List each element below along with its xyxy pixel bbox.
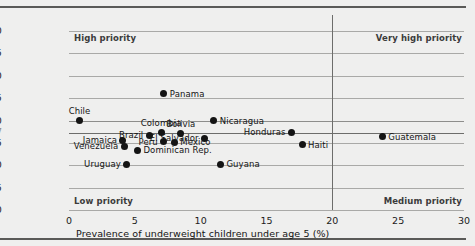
gridline [69, 210, 464, 211]
x-tick-label: 10 [186, 215, 216, 226]
data-point[interactable] [201, 135, 208, 142]
gridline [69, 143, 464, 144]
data-point[interactable] [76, 117, 83, 124]
data-point-label: Honduras [244, 127, 286, 137]
gridline [69, 76, 464, 77]
top-rule [0, 6, 466, 8]
data-point-label: Bolivia [166, 119, 195, 129]
data-point[interactable] [288, 129, 295, 136]
data-point-label: Guatemala [388, 132, 436, 142]
gridline [69, 53, 464, 54]
y-tick-label: -5 [0, 137, 2, 148]
y-tick-label: 0 [0, 115, 2, 126]
y-tick-label: -20 [0, 204, 2, 215]
data-point-label: Dominican Rep. [143, 145, 211, 155]
plot-area: 20151050-2.7-5-10-15-20 051015202530 Chi… [69, 31, 464, 210]
quadrant-label-very-high-priority: Very high priority [376, 33, 462, 43]
data-point[interactable] [123, 161, 130, 168]
gridline [69, 121, 464, 122]
x-tick-label: 0 [54, 215, 84, 226]
data-point[interactable] [160, 90, 167, 97]
vertical-threshold-line [332, 15, 333, 210]
x-tick-label: 5 [120, 215, 150, 226]
y-tick-label: -15 [0, 182, 2, 193]
data-point-label: Haiti [308, 140, 328, 150]
y-tick-label: 20 [0, 25, 2, 36]
data-point-label: Venezuela [74, 141, 119, 151]
x-tick-label: 25 [383, 215, 413, 226]
data-point[interactable] [134, 147, 141, 154]
x-tick-label: 20 [317, 215, 347, 226]
data-point-label: Nicaragua [220, 116, 264, 126]
data-point[interactable] [379, 133, 386, 140]
data-point-label: Guyana [226, 159, 259, 169]
gridline [69, 31, 464, 32]
quadrant-label-medium-priority: Medium priority [384, 196, 462, 206]
gridline [69, 98, 464, 99]
y-tick-label: -2.7 [0, 127, 2, 137]
data-point-label: Uruguay [84, 159, 121, 169]
gridline [69, 188, 464, 189]
quadrant-label-high-priority: High priority [74, 33, 136, 43]
y-tick-label: 10 [0, 70, 2, 81]
data-point[interactable] [210, 117, 217, 124]
data-point-label: El Salvador [150, 133, 199, 143]
data-point-label: Chile [69, 106, 91, 116]
y-tick-label: 5 [0, 92, 2, 103]
data-point[interactable] [299, 141, 306, 148]
x-tick-label: 15 [252, 215, 282, 226]
data-point[interactable] [217, 161, 224, 168]
data-point-label: Panama [170, 89, 205, 99]
y-tick-label: -10 [0, 159, 2, 170]
chart-panel: 20151050-2.7-5-10-15-20 051015202530 Chi… [12, 9, 466, 237]
x-axis-label: Prevalence of underweight children under… [76, 228, 329, 239]
quadrant-label-low-priority: Low priority [74, 196, 133, 206]
data-point[interactable] [121, 143, 128, 150]
y-tick-label: 15 [0, 47, 2, 58]
x-tick-label: 30 [449, 215, 475, 226]
